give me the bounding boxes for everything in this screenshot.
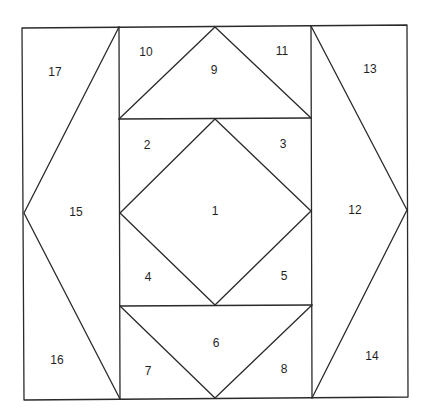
piece-label-8: 8 bbox=[281, 362, 288, 376]
piece-label-1: 1 bbox=[212, 204, 219, 218]
piece-label-9: 9 bbox=[211, 63, 218, 77]
piece-label-15: 15 bbox=[69, 205, 83, 219]
piece-label-3: 3 bbox=[280, 137, 287, 151]
piece-label-10: 10 bbox=[139, 45, 153, 59]
piece-label-16: 16 bbox=[50, 353, 64, 367]
piece-label-5: 5 bbox=[281, 269, 288, 283]
piece-label-11: 11 bbox=[276, 44, 289, 58]
piece-label-17: 17 bbox=[48, 65, 62, 79]
piece-label-14: 14 bbox=[365, 349, 379, 363]
piece-6-outline bbox=[120, 305, 312, 398]
lower-horizontal-divider bbox=[120, 305, 312, 306]
piece-label-12: 12 bbox=[348, 203, 362, 217]
diagram-svg: 1 2 3 4 5 6 7 8 9 10 11 12 13 14 15 16 1… bbox=[0, 0, 427, 416]
piece-label-4: 4 bbox=[145, 270, 152, 284]
piece-label-6: 6 bbox=[213, 336, 220, 350]
piece-label-2: 2 bbox=[144, 138, 151, 152]
quilt-block-diagram: 1 2 3 4 5 6 7 8 9 10 11 12 13 14 15 16 1… bbox=[0, 0, 427, 416]
right-column-divider bbox=[311, 26, 312, 398]
piece-label-7: 7 bbox=[145, 364, 152, 378]
piece-labels: 1 2 3 4 5 6 7 8 9 10 11 12 13 14 15 16 1… bbox=[48, 44, 379, 378]
piece-label-13: 13 bbox=[363, 62, 377, 76]
